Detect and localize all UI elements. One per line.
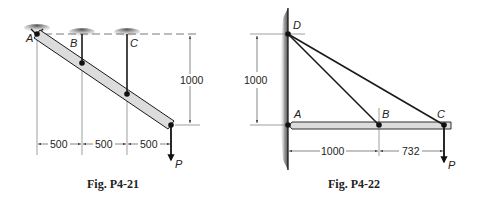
diagram-canvas: A B C 1000 500 500 500 P Fig. P4-21 [0,0,477,203]
dim-horizontal-label-2: 500 [95,138,113,150]
label-load-p: P [448,159,456,171]
pin-a [285,122,291,128]
dim-vertical-label: 1000 [180,74,204,86]
pin-a [34,31,40,37]
label-point-a: A [25,32,33,44]
figure-p4-22: D A B C 1000 1000 732 P Fig. P4-22 [244,8,456,191]
inclined-bar [34,30,174,129]
dim-horizontal-label-1: 1000 [321,145,345,157]
dim-vertical-label: 1000 [244,74,268,86]
figure-caption: Fig. P4-22 [328,177,380,191]
label-point-b: B [70,37,77,49]
label-point-b: B [382,108,389,120]
label-point-d: D [293,19,301,31]
label-load-p: P [175,158,183,170]
pin-b [376,122,382,128]
figure-caption: Fig. P4-21 [87,177,139,191]
horizontal-bar [289,122,451,129]
pin-c [124,91,130,97]
dim-horizontal-label-1: 500 [50,138,68,150]
dim-horizontal-label-3: 500 [140,138,158,150]
label-point-c: C [437,108,445,120]
pin-d [285,31,291,37]
figure-p4-21: A B C 1000 500 500 500 P Fig. P4-21 [24,24,204,191]
label-point-c: C [130,37,138,49]
pin-b [79,60,85,66]
label-point-a: A [293,108,301,120]
dim-horizontal-label-2: 732 [402,145,420,157]
